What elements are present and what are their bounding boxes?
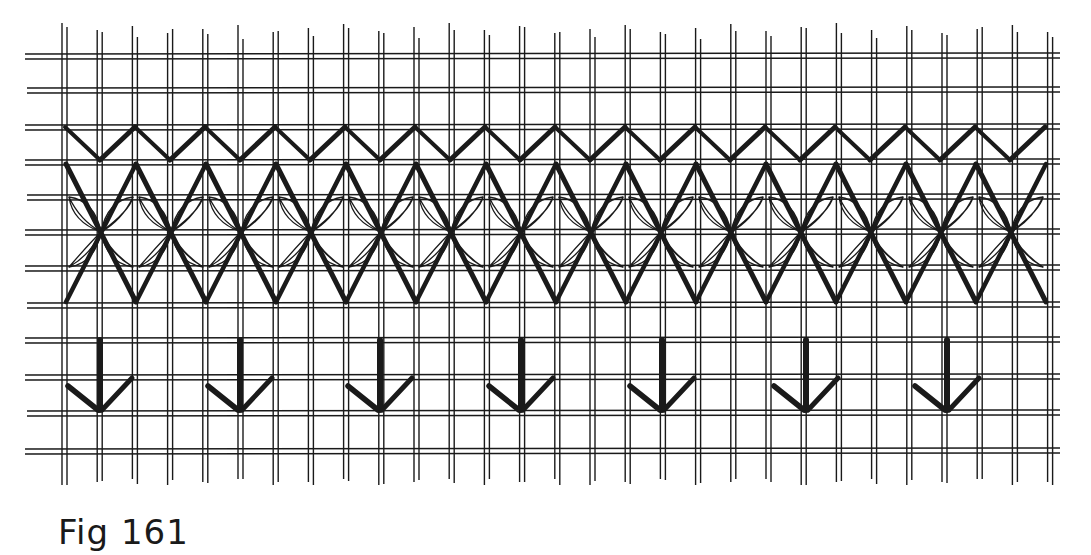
arrow-arm-stitch <box>102 378 132 410</box>
zigzag-stitch <box>450 127 485 160</box>
zigzag-stitch <box>170 127 205 160</box>
grid-line-horizontal <box>25 374 1060 375</box>
zigzag-stitch <box>310 127 345 160</box>
zigzag-stitch <box>135 127 170 160</box>
grid-line-horizontal <box>27 92 1060 93</box>
arrow-arm-stitch <box>382 378 412 410</box>
grid-line-horizontal <box>27 194 1060 195</box>
grid-line-horizontal <box>27 307 1060 308</box>
petal-stitches <box>69 197 1043 267</box>
grid-line-horizontal <box>25 234 1060 235</box>
grid-line-horizontal <box>25 379 1060 380</box>
zigzag-stitch <box>835 127 870 160</box>
zigzag-stitch <box>380 127 415 160</box>
grid-line-horizontal <box>25 448 1060 449</box>
zigzag-stitch <box>205 127 240 160</box>
arrow-arm-stitch <box>523 378 553 410</box>
grid-line-horizontal <box>25 53 1060 54</box>
zigzag-stitch <box>100 127 135 160</box>
zigzag-stitch <box>975 127 1010 160</box>
arrow-arm-stitch <box>208 386 238 410</box>
grid-line-horizontal <box>27 415 1060 416</box>
arrow-arm-stitch <box>630 386 660 410</box>
arrow-arm-stitch <box>808 378 838 410</box>
grid-line-horizontal <box>25 337 1060 338</box>
zigzag-stitch <box>1010 127 1045 160</box>
grid-line-horizontal <box>27 87 1060 88</box>
zigzag-stitch <box>870 127 905 160</box>
arrow-arm-stitch <box>949 378 979 410</box>
diamond-stitch-band <box>66 164 1046 302</box>
arrow-arm-stitch <box>664 378 694 410</box>
zigzag-stitch <box>485 127 520 160</box>
arrow-arm-stitch <box>68 386 98 410</box>
grid-line-horizontal <box>25 342 1060 343</box>
arrow-arm-stitch <box>348 386 378 410</box>
figure-caption: Fig 161 <box>58 512 189 552</box>
zigzag-stitch <box>940 127 975 160</box>
zigzag-stitch <box>415 127 450 160</box>
grid-line-horizontal <box>25 265 1060 266</box>
grid-line-horizontal <box>27 410 1060 411</box>
zigzag-stitch <box>275 127 310 160</box>
arrow-arm-stitch <box>489 386 519 410</box>
zigzag-stitch <box>65 127 100 160</box>
zigzag-stitch <box>240 127 275 160</box>
arrow-arm-stitch <box>915 386 945 410</box>
grid-line-horizontal <box>25 159 1060 160</box>
zigzag-stitch <box>905 127 940 160</box>
grid-line-horizontal <box>25 58 1060 59</box>
arrow-arm-stitch <box>774 386 804 410</box>
zigzag-stitch <box>765 127 800 160</box>
grid-line-horizontal <box>25 453 1060 454</box>
zigzag-stitch <box>345 127 380 160</box>
smocking-diagram <box>0 0 1091 500</box>
grid-line-horizontal <box>25 229 1060 230</box>
zigzag-stitch <box>800 127 835 160</box>
arrow-arm-stitch <box>242 378 272 410</box>
